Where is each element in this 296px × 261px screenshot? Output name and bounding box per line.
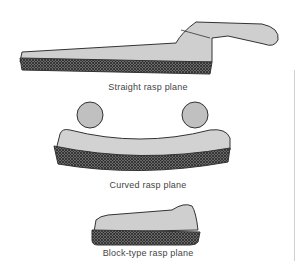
straight-rasp-plane-icon [20, 22, 278, 74]
block-rasp-plane-label: Block-type rasp plane [0, 248, 296, 258]
straight-rasp-plane-label: Straight rasp plane [0, 82, 296, 92]
block-rasp-plane-icon [92, 205, 200, 245]
page-edge-line [294, 70, 295, 261]
curved-rasp-plane-icon [54, 102, 230, 171]
curved-rasp-plane-label: Curved rasp plane [0, 180, 296, 190]
rasp-planes-illustration [0, 0, 296, 261]
